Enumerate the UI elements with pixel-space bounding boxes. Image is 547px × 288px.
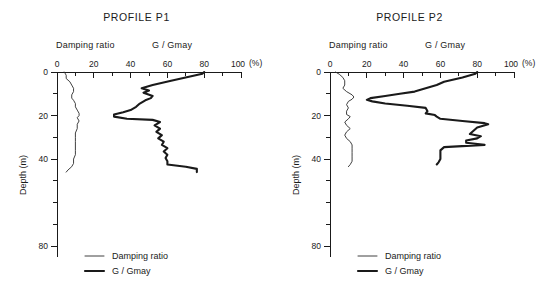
series-damping-ratio-p1 <box>64 72 79 172</box>
y-tick-label-0-p1: 0 <box>43 67 48 77</box>
x-tick-label-40-p1: 40 <box>126 59 136 69</box>
y-axis-major-ticks-p2 <box>324 72 330 246</box>
legend-label-damping-p1: Damping ratio <box>112 251 168 261</box>
plot-area-p1: 0 20 40 60 80 100 (%) 0 20 40 <box>0 0 273 288</box>
x-tick-label-0-p1: 0 <box>55 59 60 69</box>
x-tick-label-100-p2: 100 <box>504 59 518 69</box>
y-axis-major-ticks-p1 <box>51 72 57 246</box>
x-tick-label-40-p2: 40 <box>399 59 409 69</box>
x-tick-label-60-p2: 60 <box>436 59 446 69</box>
legend-label-ggmax-p1: G / Gmay <box>112 266 151 276</box>
x-tick-label-0-p2: 0 <box>328 59 333 69</box>
legend-label-damping-p2: Damping ratio <box>385 251 441 261</box>
y-axis-title-p2: Depth (m) <box>291 155 301 195</box>
x-axis-unit-p2: (%) <box>522 58 535 68</box>
y-tick-label-40-p1: 40 <box>39 154 49 164</box>
figure-container: PROFILE P1 Damping ratio G / Gmay <box>0 0 547 288</box>
x-tick-label-20-p2: 20 <box>362 59 372 69</box>
x-axis-unit-p1: (%) <box>249 58 262 68</box>
x-tick-label-20-p1: 20 <box>89 59 99 69</box>
series-ggmax-p1 <box>114 72 204 172</box>
legend-p1: Damping ratio G / Gmay <box>85 251 168 276</box>
series-ggmax-p2 <box>367 72 488 165</box>
plot-area-p2: 0 20 40 60 80 100 (%) 0 20 40 <box>273 0 546 288</box>
legend-p2: Damping ratio G / Gmay <box>358 251 441 276</box>
x-tick-label-80-p2: 80 <box>472 59 482 69</box>
y-tick-label-20-p1: 20 <box>39 111 49 121</box>
x-tick-label-100-p1: 100 <box>231 59 245 69</box>
x-tick-label-60-p1: 60 <box>163 59 173 69</box>
legend-label-ggmax-p2: G / Gmay <box>385 266 424 276</box>
y-tick-label-40-p2: 40 <box>312 154 322 164</box>
profile-panel-p2: PROFILE P2 Damping ratio G / Gmay 0 <box>273 0 546 288</box>
y-axis-title-p1: Depth (m) <box>18 155 28 195</box>
series-damping-ratio-p2 <box>336 72 354 167</box>
y-tick-label-20-p2: 20 <box>312 111 322 121</box>
y-tick-label-80-p1: 80 <box>39 241 49 251</box>
y-tick-label-80-p2: 80 <box>312 241 322 251</box>
y-tick-label-0-p2: 0 <box>316 67 321 77</box>
x-tick-label-80-p1: 80 <box>199 59 209 69</box>
profile-panel-p1: PROFILE P1 Damping ratio G / Gmay <box>0 0 273 288</box>
